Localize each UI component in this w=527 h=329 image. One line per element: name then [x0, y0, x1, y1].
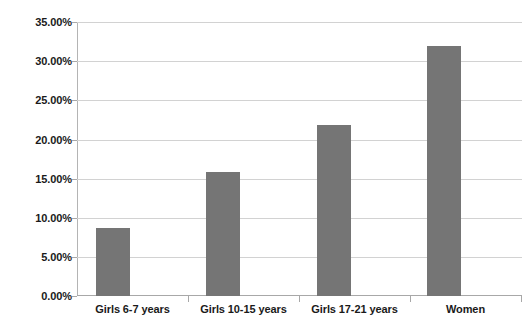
y-axis-tick-label: 0.00% [2, 291, 72, 302]
bar-girls-10-15-years [206, 172, 240, 296]
bar-chart: 35.00% 30.00% 25.00% 20.00% 15.00% 10.00… [0, 0, 527, 329]
x-axis-tickmark [410, 296, 411, 302]
bar-girls-6-7-years [96, 228, 130, 296]
x-axis-label-girls-10-15-years: Girls 10-15 years [188, 303, 299, 315]
gridline [77, 22, 522, 23]
x-axis-label-girls-17-21-years: Girls 17-21 years [299, 303, 410, 315]
y-axis-tick-label: 25.00% [2, 95, 72, 106]
y-axis-tickmark [72, 296, 77, 297]
plot-area [77, 22, 522, 296]
x-axis-tickmark [299, 296, 300, 302]
y-axis-tick-label: 10.00% [2, 213, 72, 224]
y-axis-tick-label: 30.00% [2, 56, 72, 67]
bar-girls-17-21-years [317, 125, 351, 296]
y-axis-tick-label: 15.00% [2, 174, 72, 185]
y-axis-tick-label: 35.00% [2, 17, 72, 28]
y-axis-tick-label: 20.00% [2, 135, 72, 146]
x-axis-tickmark [188, 296, 189, 302]
x-axis-label-girls-6-7-years: Girls 6-7 years [77, 303, 188, 315]
y-axis-tick-label: 5.00% [2, 252, 72, 263]
x-axis-tickmark [521, 296, 522, 302]
bar-women [427, 46, 461, 296]
x-axis-label-women: Women [410, 303, 521, 315]
